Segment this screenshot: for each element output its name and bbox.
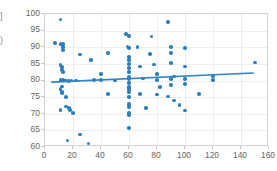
x-axis-tick-mark bbox=[44, 146, 45, 149]
y-axis-tick-label: 90 bbox=[0, 42, 40, 51]
y-axis-tick-label: 100 bbox=[0, 9, 40, 18]
y-axis-tick-mark bbox=[41, 30, 44, 31]
y-axis-tick-mark bbox=[41, 46, 44, 47]
plot-area bbox=[44, 13, 268, 146]
y-axis-tick-mark bbox=[41, 113, 44, 114]
y-axis-tick-label: 95 bbox=[0, 25, 40, 34]
x-axis-tick-label: 0 bbox=[29, 151, 59, 160]
scatter-chart: ] ) 6065707580859095100 0204060801001201… bbox=[0, 0, 277, 171]
y-axis: 6065707580859095100 bbox=[0, 0, 40, 171]
y-axis-tick-mark bbox=[41, 80, 44, 81]
x-axis-tick-label: 40 bbox=[85, 151, 115, 160]
x-axis-tick-mark bbox=[240, 146, 241, 149]
x-axis-tick-label: 140 bbox=[225, 151, 255, 160]
x-axis-tick-mark bbox=[128, 146, 129, 149]
y-axis-tick-label: 80 bbox=[0, 75, 40, 84]
y-axis-tick-mark bbox=[41, 96, 44, 97]
x-axis-tick-mark bbox=[212, 146, 213, 149]
x-axis-tick-label: 120 bbox=[197, 151, 227, 160]
x-axis-tick-label: 100 bbox=[169, 151, 199, 160]
x-axis-tick-label: 160 bbox=[253, 151, 277, 160]
y-axis-tick-mark bbox=[41, 63, 44, 64]
x-axis-tick-mark bbox=[268, 146, 269, 149]
x-axis-tick-mark bbox=[100, 146, 101, 149]
y-axis-tick-label: 85 bbox=[0, 59, 40, 68]
x-axis-tick-label: 80 bbox=[141, 151, 171, 160]
x-axis-tick-label: 60 bbox=[113, 151, 143, 160]
y-axis-tick-label: 75 bbox=[0, 92, 40, 101]
x-axis-tick-label: 20 bbox=[57, 151, 87, 160]
y-axis-tick-label: 70 bbox=[0, 109, 40, 118]
trendline bbox=[45, 14, 267, 145]
x-axis-tick-mark bbox=[72, 146, 73, 149]
y-axis-tick-mark bbox=[41, 129, 44, 130]
x-axis-tick-mark bbox=[184, 146, 185, 149]
y-axis-tick-mark bbox=[41, 13, 44, 14]
y-axis-tick-label: 65 bbox=[0, 125, 40, 134]
x-axis-tick-mark bbox=[156, 146, 157, 149]
y-axis-tick-label: 60 bbox=[0, 142, 40, 151]
